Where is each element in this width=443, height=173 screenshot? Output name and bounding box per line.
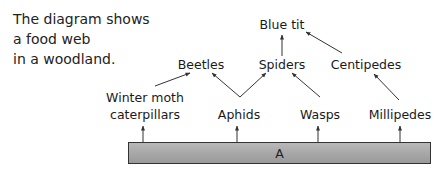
arrow-wasps-to-spiders [292, 73, 320, 97]
producer-label: A [275, 146, 284, 161]
producer-bar-a: A [128, 142, 431, 164]
node-millipedes: Millipedes [369, 106, 431, 123]
arrow-aphids-to-beetles [212, 73, 240, 97]
arrow-centipedes-to-blue-tit [306, 32, 342, 53]
node-spiders: Spiders [259, 56, 306, 73]
node-centipedes: Centipedes [331, 56, 401, 73]
winter-moth-line-1: Winter moth [106, 89, 184, 106]
node-winter-moth-caterpillars: Winter moth caterpillars [106, 89, 184, 123]
arrow-winter-moth-to-beetles [155, 73, 190, 86]
arrow-aphids-to-spiders [240, 73, 266, 97]
node-beetles: Beetles [178, 56, 225, 73]
node-aphids: Aphids [218, 106, 260, 123]
node-blue-tit: Blue tit [260, 16, 305, 33]
winter-moth-line-2: caterpillars [106, 106, 184, 123]
arrow-millipedes-to-centipedes [374, 74, 399, 100]
node-wasps: Wasps [300, 106, 340, 123]
